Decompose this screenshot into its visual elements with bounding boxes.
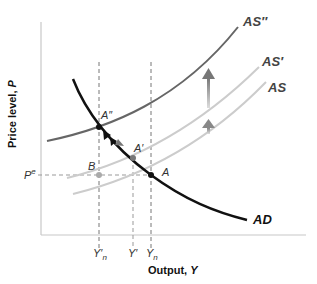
- y-prime-tick-label: Y′: [128, 247, 137, 259]
- x-axis-title-text: Output,: [148, 264, 190, 276]
- yn-prime-tick-label: Y′n: [93, 247, 107, 262]
- point-a-prime: [130, 155, 136, 161]
- shift-arrow-small-shaft: [207, 127, 210, 134]
- as-double-prime-label: AS″: [243, 14, 267, 29]
- yn-tick-sub: n: [153, 253, 157, 262]
- yn-prime-tick-main: Y′: [93, 247, 102, 259]
- as-label: AS: [268, 80, 286, 95]
- point-a-double-prime-label: A″: [101, 109, 112, 121]
- x-axis-title: Output, Y: [148, 264, 198, 276]
- pe-tick-label: Pe: [24, 167, 36, 181]
- point-a: [148, 172, 154, 178]
- point-a-prime-label: A′: [134, 142, 143, 154]
- point-b: [96, 172, 102, 178]
- as-ad-diagram: [0, 0, 317, 284]
- y-axis-title: Price level, P: [6, 80, 18, 148]
- point-b-label: B: [88, 160, 95, 172]
- shift-arrow-large-icon: [202, 68, 215, 79]
- x-axis-title-var: Y: [190, 264, 197, 276]
- yn-tick-label: Yn: [146, 247, 158, 262]
- as-curve: [73, 82, 266, 194]
- as-prime-label: AS′: [262, 54, 283, 69]
- shift-arrow-large-shaft: [207, 78, 210, 108]
- y-axis-title-text: Price level,: [6, 87, 18, 148]
- y-prime-tick-main: Y′: [128, 247, 137, 259]
- ad-move-arrow-1-icon: [115, 139, 124, 146]
- point-a-label: A: [162, 166, 169, 178]
- as-prime-curve: [67, 67, 259, 178]
- shift-arrow-small-icon: [202, 119, 215, 128]
- yn-prime-tick-sub: n: [102, 253, 106, 262]
- pe-tick-sup: e: [31, 167, 35, 176]
- y-axis-title-var: P: [6, 80, 18, 87]
- ad-label: AD: [253, 212, 272, 227]
- point-a-double-prime: [96, 124, 102, 130]
